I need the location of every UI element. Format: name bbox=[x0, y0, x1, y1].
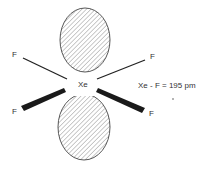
bond-upper-left bbox=[23, 58, 67, 79]
f-label-lower-right: F bbox=[149, 110, 154, 118]
dot-mark bbox=[172, 98, 174, 100]
lone-pair-bottom bbox=[58, 94, 110, 160]
lone-pair-top bbox=[60, 8, 110, 72]
xe-label: Xe bbox=[78, 81, 88, 89]
f-label-upper-left: F bbox=[12, 51, 17, 59]
bond-lower-left-wedge bbox=[21, 88, 66, 111]
f-label-lower-left: F bbox=[12, 108, 17, 116]
bond-length-annotation: Xe - F = 195 pm bbox=[138, 82, 196, 90]
f-label-upper-right: F bbox=[150, 53, 155, 61]
bond-upper-right bbox=[97, 60, 145, 79]
